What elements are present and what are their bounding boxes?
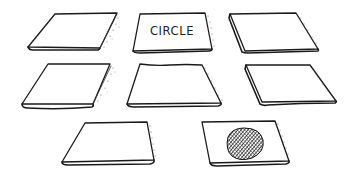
card-word-label: CIRCLE xyxy=(150,24,194,38)
card-3[interactable] xyxy=(228,13,319,53)
game-board: CIRCLE xyxy=(0,0,361,175)
hatched-circle-icon xyxy=(227,128,263,160)
card-2-circle-word[interactable]: CIRCLE xyxy=(133,13,215,53)
card-8-circle-shape[interactable] xyxy=(202,121,289,166)
card-7[interactable] xyxy=(62,122,156,165)
card-1[interactable] xyxy=(28,13,119,50)
card-5[interactable] xyxy=(127,64,223,107)
card-6[interactable] xyxy=(245,65,336,105)
card-4[interactable] xyxy=(22,64,115,109)
